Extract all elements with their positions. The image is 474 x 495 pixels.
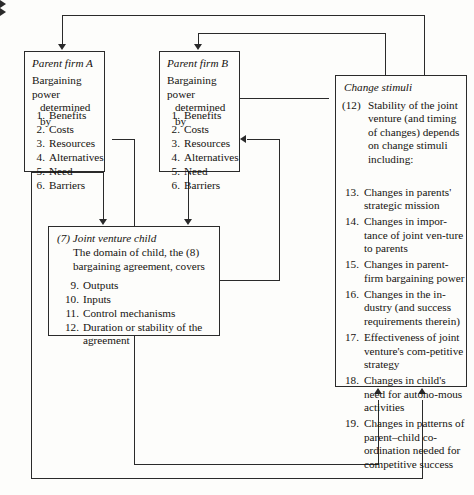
joint-venture-child-description: The domain of child, the (8) bargaining … bbox=[73, 246, 217, 273]
change-stimuli-lead: (12) Stability of the joint venture (and… bbox=[342, 99, 464, 166]
connector-jv-to-parenta-vertical bbox=[134, 139, 135, 227]
list-item: 4.Alternatives bbox=[167, 151, 239, 165]
arrowhead-into-change-stimuli-left bbox=[0, 0, 474, 8]
arrowhead-into-jv-from-parent-a bbox=[99, 219, 107, 225]
item-number: 18. bbox=[342, 374, 359, 415]
list-item: 12.Duration or stability of the agreemen… bbox=[57, 321, 217, 348]
connector-jv-to-parentb-vertical bbox=[279, 139, 280, 281]
arrowhead-into-parent-b-top bbox=[194, 44, 202, 50]
item-number: 19. bbox=[342, 417, 359, 471]
arrowhead-into-parent-a-right bbox=[0, 8, 474, 16]
list-item: 16.Changes in the in-dustry (and success… bbox=[342, 288, 466, 329]
parent-firm-a-box[interactable]: Parent firm A Bargaining power determine… bbox=[24, 51, 105, 172]
parent-firm-b-box[interactable]: Parent firm B Bargaining power determine… bbox=[159, 51, 240, 172]
item-text: Control mechanisms bbox=[83, 307, 217, 321]
item-text: Changes in parent-firm bargaining power bbox=[364, 258, 466, 285]
diagram-canvas: Parent firm A Bargaining power determine… bbox=[0, 0, 474, 495]
parent-firm-b-title: Parent firm B bbox=[167, 57, 228, 69]
list-item: 1.Benefits bbox=[32, 109, 104, 123]
item-text: Need bbox=[184, 165, 239, 179]
parent-firm-a-list: 1.Benefits 2.Costs 3.Resources 4.Alterna… bbox=[32, 108, 104, 192]
joint-venture-child-title-text: Joint venture child bbox=[73, 232, 156, 244]
item-number: 1. bbox=[32, 109, 45, 123]
list-item: 9.Outputs bbox=[57, 279, 217, 293]
item-text: Alternatives bbox=[49, 151, 104, 165]
change-stimuli-box[interactable]: Change stimuli (12) Stability of the joi… bbox=[335, 75, 467, 387]
item-text: Changes in child's need for autono-mous … bbox=[364, 374, 466, 415]
joint-venture-child-marker: (7) bbox=[57, 232, 70, 244]
change-stimuli-title: Change stimuli bbox=[344, 81, 412, 93]
connector-jv-bottom-vertical bbox=[134, 336, 135, 465]
item-number: 5. bbox=[167, 165, 180, 179]
list-item: 11.Control mechanisms bbox=[57, 307, 217, 321]
list-item: 3.Resources bbox=[32, 137, 104, 151]
item-text: Alternatives bbox=[184, 151, 239, 165]
item-text: Inputs bbox=[83, 293, 217, 307]
item-text: Need bbox=[49, 165, 104, 179]
change-stimuli-lead-text: Stability of the joint venture (and timi… bbox=[368, 99, 464, 166]
list-item: 14.Changes in impor-tance of joint ven-t… bbox=[342, 215, 466, 256]
parent-firm-b-header-line1: Bargaining power bbox=[167, 74, 217, 100]
item-number: 2. bbox=[167, 123, 180, 137]
item-text: Resources bbox=[184, 137, 239, 151]
connector-top-inner-right-vertical bbox=[385, 33, 386, 75]
change-stimuli-lead-marker: (12) bbox=[342, 99, 366, 166]
item-text: Changes in parents' strategic mission bbox=[364, 186, 466, 213]
item-text: Changes in the in-dustry (and success re… bbox=[364, 288, 466, 329]
item-number: 4. bbox=[167, 151, 180, 165]
arrowhead-into-jv-from-parent-b bbox=[184, 219, 192, 225]
joint-venture-child-list: 9.Outputs 10.Inputs 11.Control mechanism… bbox=[57, 278, 217, 348]
item-number: 5. bbox=[32, 165, 45, 179]
connector-left-outer-vertical bbox=[31, 172, 32, 479]
item-text: Effectiveness of joint venture's com-pet… bbox=[364, 331, 466, 372]
list-item: 1.Benefits bbox=[167, 109, 239, 123]
list-item: 10.Inputs bbox=[57, 293, 217, 307]
joint-venture-child-box[interactable]: (7) Joint venture child The domain of ch… bbox=[48, 226, 220, 336]
parent-firm-a-title: Parent firm A bbox=[32, 57, 93, 69]
item-text: Barriers bbox=[49, 179, 104, 193]
connector-jv-right-out bbox=[220, 280, 280, 281]
item-text: Benefits bbox=[49, 109, 104, 123]
item-number: 15. bbox=[342, 258, 359, 285]
item-number: 6. bbox=[32, 179, 45, 193]
item-text: Outputs bbox=[83, 279, 217, 293]
parent-firm-a-header-line1: Bargaining power bbox=[32, 74, 82, 100]
list-item: 6.Barriers bbox=[32, 179, 104, 193]
item-number: 13. bbox=[342, 186, 359, 213]
list-item: 18.Changes in child's need for autono-mo… bbox=[342, 374, 466, 415]
list-item: 3.Resources bbox=[167, 137, 239, 151]
connector-bottom-outer-horizontal bbox=[31, 478, 423, 479]
item-number: 3. bbox=[167, 137, 180, 151]
item-number: 10. bbox=[57, 293, 79, 307]
item-number: 4. bbox=[32, 151, 45, 165]
item-number: 9. bbox=[57, 279, 79, 293]
item-number: 3. bbox=[32, 137, 45, 151]
item-number: 1. bbox=[167, 109, 180, 123]
item-text: Changes in impor-tance of joint ven-ture… bbox=[364, 215, 466, 256]
connector-jv-to-parenta-horizontal bbox=[112, 139, 135, 140]
item-number: 11. bbox=[57, 307, 79, 321]
item-text: Barriers bbox=[184, 179, 239, 193]
list-item: 2.Costs bbox=[32, 123, 104, 137]
item-number: 2. bbox=[32, 123, 45, 137]
item-number: 14. bbox=[342, 215, 359, 256]
list-item: 5.Need bbox=[32, 165, 104, 179]
arrowhead-into-parent-b-right bbox=[240, 135, 246, 143]
list-item: 19.Changes in patterns of parent–child c… bbox=[342, 417, 466, 471]
connector-top-outer-right-vertical bbox=[424, 15, 425, 75]
item-text: Duration or stability of the agreement bbox=[83, 321, 217, 348]
connector-jv-to-parentb-horizontal bbox=[247, 139, 280, 140]
item-text: Changes in patterns of parent–child co-o… bbox=[364, 417, 466, 471]
list-item: 15.Changes in parent-firm bargaining pow… bbox=[342, 258, 466, 285]
item-number: 12. bbox=[57, 321, 79, 348]
connector-top-outer-left-vertical bbox=[62, 15, 63, 45]
change-stimuli-list: 13.Changes in parents' strategic mission… bbox=[342, 183, 466, 471]
item-text: Costs bbox=[49, 123, 104, 137]
list-item: 4.Alternatives bbox=[32, 151, 104, 165]
connector-parentb-to-change-stimuli bbox=[240, 98, 329, 99]
item-text: Resources bbox=[49, 137, 104, 151]
list-item: 17.Effectiveness of joint venture's com-… bbox=[342, 331, 466, 372]
item-text: Costs bbox=[184, 123, 239, 137]
list-item: 13.Changes in parents' strategic mission bbox=[342, 186, 466, 213]
list-item: 2.Costs bbox=[167, 123, 239, 137]
